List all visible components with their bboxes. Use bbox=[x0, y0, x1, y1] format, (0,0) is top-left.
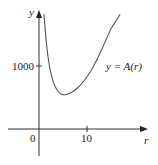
y-tick-1000-label: 1000 bbox=[12, 60, 35, 72]
curve-A-of-r bbox=[44, 14, 120, 94]
x-tick-10-label: 10 bbox=[81, 132, 93, 144]
y-axis-arrow-icon bbox=[36, 10, 42, 18]
chart: y r 0 10 1000 y = A(r) bbox=[0, 0, 158, 165]
y-axis-label: y bbox=[28, 6, 34, 18]
origin-label: 0 bbox=[30, 132, 36, 144]
x-axis-label: r bbox=[144, 134, 149, 146]
x-axis-arrow-icon bbox=[140, 126, 148, 132]
curve-label: y = A(r) bbox=[105, 60, 142, 73]
